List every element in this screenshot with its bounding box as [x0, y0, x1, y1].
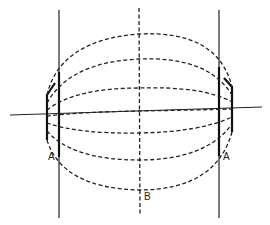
label-right-A: A: [223, 151, 230, 162]
diagram-canvas: A A B: [0, 0, 270, 225]
label-B: B: [144, 191, 151, 202]
right-outer-bar: [224, 78, 232, 132]
label-left-A: A: [48, 151, 55, 162]
